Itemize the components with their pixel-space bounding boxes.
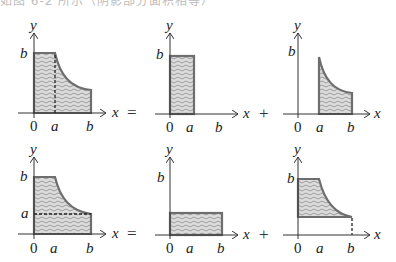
a-tick-x: a — [316, 119, 324, 135]
shaded-region — [34, 53, 91, 113]
b-tick-y: b — [157, 169, 165, 185]
shaded-region — [34, 177, 91, 234]
b-tick-x: b — [347, 240, 355, 256]
x-label: x — [111, 104, 119, 120]
a-tick-x: a — [186, 119, 194, 135]
panel-bottom-upper: x y b 0 a b — [283, 141, 381, 256]
y-label: y — [164, 141, 173, 157]
panel-top-curve: x y b 0 a b — [283, 17, 381, 135]
plus-sign: + — [259, 104, 269, 123]
x-label: x — [373, 105, 381, 121]
shaded-region — [319, 57, 352, 114]
shaded-rectangle — [170, 56, 194, 114]
shaded-rectangle — [170, 213, 222, 235]
a-tick-x: a — [186, 240, 194, 256]
y-label: y — [28, 141, 37, 157]
panel-bottom-whole: x y b a 0 a b — [18, 141, 119, 256]
zero-label: 0 — [166, 240, 174, 256]
a-tick-x: a — [51, 118, 59, 134]
panel-top-whole: x y b 0 a b — [18, 17, 119, 134]
x-label: x — [373, 226, 381, 242]
a-tick-y: a — [21, 205, 29, 221]
x-label: x — [242, 105, 250, 121]
x-label: x — [242, 226, 250, 242]
b-tick-y: b — [20, 168, 28, 184]
zero-label: 0 — [30, 240, 38, 256]
plus-sign: + — [259, 225, 269, 244]
b-tick-x: b — [215, 119, 223, 135]
b-tick-x: b — [217, 240, 225, 256]
a-tick-x: a — [50, 240, 58, 256]
zero-label: 0 — [294, 119, 302, 135]
x-label: x — [111, 225, 119, 241]
zero-label: 0 — [294, 240, 302, 256]
b-tick-y: b — [287, 170, 295, 186]
shaded-region — [298, 179, 352, 217]
b-tick-x: b — [347, 119, 355, 135]
b-tick-y: b — [288, 43, 296, 59]
y-label: y — [292, 17, 301, 33]
zero-label: 0 — [166, 119, 174, 135]
panel-top-rect: x y b 0 a b — [155, 17, 250, 135]
zero-label: 0 — [30, 118, 38, 134]
figure: 如图 6-2 所示（阴影部分面积相等） x y b 0 a b = — [0, 0, 396, 262]
b-tick-y: b — [20, 45, 28, 61]
b-tick-x: b — [86, 240, 94, 256]
equals-sign: = — [127, 224, 137, 243]
equals-sign: = — [127, 103, 137, 122]
y-label: y — [28, 17, 37, 33]
panel-bottom-rect: x y b 0 a b — [155, 141, 250, 256]
b-tick-y: b — [156, 46, 164, 62]
b-tick-x: b — [86, 118, 94, 134]
y-label: y — [292, 141, 301, 157]
a-tick-x: a — [316, 240, 324, 256]
y-label: y — [164, 17, 173, 33]
